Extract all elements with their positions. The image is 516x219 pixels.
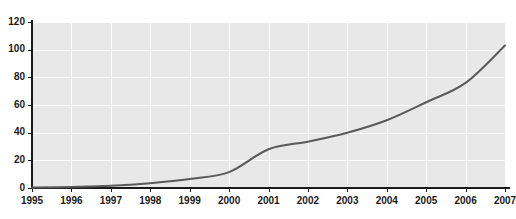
- x-tick-label: 2003: [336, 195, 359, 206]
- x-tick-label: 2000: [218, 195, 241, 206]
- x-axis-tick-labels: 1995199619971998199920002001200220032004…: [21, 195, 516, 206]
- x-tick-label: 2004: [376, 195, 399, 206]
- y-tick-label: 20: [14, 154, 26, 165]
- chart-canvas: 020406080100120 199519961997199819992000…: [0, 0, 516, 219]
- x-tick-label: 2006: [454, 195, 477, 206]
- y-tick-label: 100: [8, 43, 25, 54]
- y-tick-label: 120: [8, 16, 25, 27]
- y-tick-label: 40: [14, 126, 26, 137]
- x-tick-label: 1997: [100, 195, 123, 206]
- y-tick-label: 60: [14, 99, 26, 110]
- x-tick-label: 1999: [179, 195, 202, 206]
- x-tick-label: 2005: [415, 195, 438, 206]
- x-tick-label: 2007: [494, 195, 516, 206]
- x-tick-label: 1995: [21, 195, 44, 206]
- x-tick-label: 1996: [60, 195, 83, 206]
- x-tick-label: 2001: [257, 195, 280, 206]
- line-chart: 020406080100120 199519961997199819992000…: [0, 0, 516, 219]
- y-tick-label: 0: [19, 182, 25, 193]
- x-tick-label: 2002: [297, 195, 320, 206]
- y-tick-label: 80: [14, 71, 26, 82]
- x-tick-label: 1998: [139, 195, 162, 206]
- y-axis-tick-labels: 020406080100120: [8, 16, 25, 193]
